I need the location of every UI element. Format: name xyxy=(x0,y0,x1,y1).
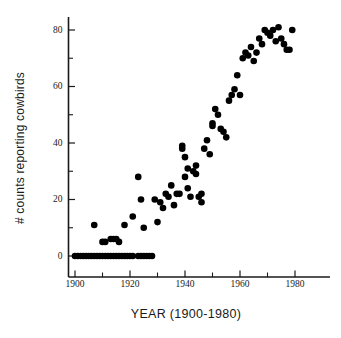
data-point xyxy=(187,193,194,200)
data-point xyxy=(165,193,172,200)
data-point xyxy=(215,111,222,118)
data-points-layer xyxy=(72,24,296,259)
data-point xyxy=(206,151,213,158)
data-point xyxy=(223,134,230,141)
data-point xyxy=(237,92,244,99)
data-point xyxy=(286,46,293,53)
data-point xyxy=(245,52,252,59)
y-axis-ticks: 020406080 xyxy=(53,25,75,261)
data-point xyxy=(289,27,296,34)
y-tick-label: 20 xyxy=(53,194,63,204)
data-point xyxy=(267,32,274,39)
data-point xyxy=(278,35,285,42)
data-point xyxy=(228,92,235,99)
data-point xyxy=(256,35,263,42)
y-tick-label: 40 xyxy=(53,138,63,148)
data-point xyxy=(91,222,98,229)
data-point xyxy=(171,202,178,209)
data-point xyxy=(234,72,241,79)
data-point xyxy=(231,86,238,93)
data-point xyxy=(198,199,205,206)
data-point xyxy=(193,171,200,178)
data-point xyxy=(281,41,288,48)
data-point xyxy=(157,199,164,206)
x-tick-label: 1920 xyxy=(121,279,140,289)
y-axis-title: # counts reporting cowbirds xyxy=(13,72,27,224)
data-point xyxy=(154,219,161,226)
y-tick-label: 80 xyxy=(53,25,63,35)
data-point xyxy=(193,162,200,169)
data-point xyxy=(201,145,208,152)
data-point xyxy=(184,185,191,192)
x-tick-label: 1940 xyxy=(176,279,195,289)
data-point xyxy=(212,106,219,113)
data-point xyxy=(129,213,136,220)
data-point xyxy=(121,222,128,229)
data-point xyxy=(253,49,260,56)
data-point xyxy=(209,120,216,127)
data-point xyxy=(259,41,266,48)
data-point xyxy=(198,191,205,198)
x-tick-label: 1900 xyxy=(66,279,85,289)
data-point xyxy=(182,174,189,181)
x-tick-label: 1960 xyxy=(231,279,250,289)
data-point xyxy=(160,205,167,212)
y-tick-label: 60 xyxy=(53,81,63,91)
x-axis-ticks: 19001920194019601980 xyxy=(66,271,305,290)
data-point xyxy=(226,97,233,104)
data-point xyxy=(250,58,257,65)
data-point xyxy=(135,174,142,181)
data-point xyxy=(176,191,183,198)
data-point xyxy=(204,137,211,144)
data-point xyxy=(182,154,189,161)
data-point xyxy=(138,196,145,203)
data-point xyxy=(116,239,123,246)
data-point xyxy=(248,44,255,51)
scatter-plot-figure: 020406080 19001920194019601980 YEAR (190… xyxy=(0,0,341,338)
data-point xyxy=(149,253,156,260)
data-point xyxy=(168,182,175,189)
data-point xyxy=(220,128,227,135)
y-tick-label: 0 xyxy=(58,251,63,261)
data-point xyxy=(140,224,147,231)
x-tick-label: 1980 xyxy=(286,279,305,289)
data-point xyxy=(179,145,186,152)
chart-canvas: 020406080 19001920194019601980 YEAR (190… xyxy=(0,0,341,338)
x-axis-title: YEAR (1900-1980) xyxy=(131,307,241,321)
data-point xyxy=(275,24,282,31)
